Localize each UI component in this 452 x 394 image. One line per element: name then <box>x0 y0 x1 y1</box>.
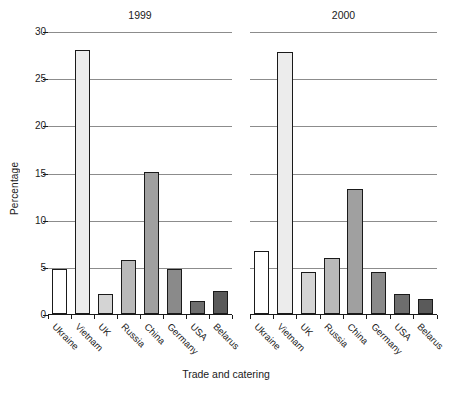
x-axis-title: Trade and catering <box>0 368 452 380</box>
bar-slot <box>390 32 413 314</box>
bar-slot <box>273 32 296 314</box>
bar-slot <box>140 32 163 314</box>
bar <box>213 291 228 314</box>
y-tick-mark <box>43 174 48 175</box>
bar-slot <box>48 32 71 314</box>
bar <box>418 299 433 314</box>
plot-area <box>250 32 437 315</box>
bar-slot <box>163 32 186 314</box>
bar-slot <box>250 32 273 314</box>
x-tick-label: UK <box>299 321 316 338</box>
chart-figure: Percentage 051015202530 1999 UkraineViet… <box>0 0 452 394</box>
bar <box>52 269 67 314</box>
bar <box>98 294 113 314</box>
bar <box>121 260 136 314</box>
bar <box>371 272 386 314</box>
y-tick-mark <box>43 221 48 222</box>
x-tick-label: Belarus <box>211 321 242 352</box>
y-tick-mark <box>43 79 48 80</box>
bar <box>144 172 159 314</box>
bar-series <box>250 32 437 314</box>
bar-slot <box>344 32 367 314</box>
y-axis-title: Percentage <box>6 118 22 258</box>
panel-title: 1999 <box>48 9 232 21</box>
panel-title: 2000 <box>250 9 437 21</box>
bar-slot <box>367 32 390 314</box>
panel-1999: 1999 UkraineVietnamUKRussiaChinaGermanyU… <box>48 32 232 315</box>
panel-2000: 2000 UkraineVietnamUKRussiaChinaGermanyU… <box>250 32 437 315</box>
bar <box>254 251 269 314</box>
y-axis-ticks: 051015202530 <box>22 0 46 394</box>
bar-slot <box>94 32 117 314</box>
y-tick-mark <box>43 268 48 269</box>
bar-slot <box>320 32 343 314</box>
x-tick-label: USA <box>188 321 210 343</box>
y-tick-mark <box>43 32 48 33</box>
bar <box>75 50 90 314</box>
x-tick-label: Belarus <box>416 321 447 352</box>
bar <box>277 52 292 314</box>
x-tick-label: UK <box>96 321 113 338</box>
bar <box>347 189 362 314</box>
bar-slot <box>186 32 209 314</box>
bar <box>190 301 205 314</box>
bar <box>324 258 339 314</box>
bar-slot <box>297 32 320 314</box>
bar <box>301 272 316 314</box>
bar-slot <box>414 32 437 314</box>
bar-series <box>48 32 232 314</box>
bar <box>167 269 182 314</box>
plot-area <box>48 32 232 315</box>
y-tick-mark <box>43 315 48 316</box>
bar-slot <box>71 32 94 314</box>
y-tick-mark <box>43 126 48 127</box>
bar-slot <box>209 32 232 314</box>
x-tick-label: USA <box>392 321 414 343</box>
bar <box>394 294 409 314</box>
bar-slot <box>117 32 140 314</box>
